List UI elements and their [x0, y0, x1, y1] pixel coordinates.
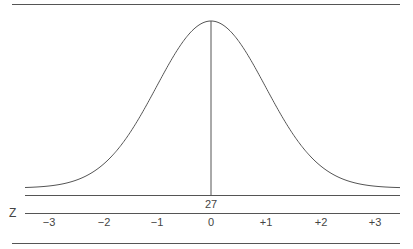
normal-distribution-diagram: 27 Z −3 −2 −1 0 +1 +2 +3: [0, 0, 413, 249]
tick-label: −1: [151, 216, 164, 228]
tick-label: +2: [315, 216, 328, 228]
z-tick-labels: −3 −2 −1 0 +1 +2 +3: [43, 216, 382, 228]
normal-curve: [25, 21, 400, 188]
tick-label: +1: [260, 216, 273, 228]
tick-label: −2: [98, 216, 111, 228]
tick-label: −3: [43, 216, 56, 228]
tick-label: +3: [369, 216, 382, 228]
mean-label: 27: [205, 198, 217, 210]
tick-label: 0: [208, 216, 214, 228]
z-axis-label: Z: [9, 206, 16, 220]
